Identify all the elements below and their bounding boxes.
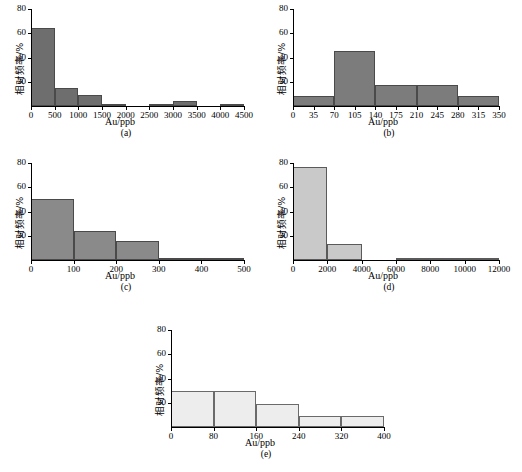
histogram-bar: [171, 391, 214, 427]
x-tick-label: 320: [321, 432, 361, 441]
x-tick-label: 400: [364, 432, 404, 441]
histogram-bar: [299, 416, 342, 427]
x-axis-label: Au/ppb: [230, 437, 290, 448]
y-axis-label: 相对频率/%: [152, 364, 166, 416]
bars-layer: [0, 0, 522, 472]
panel-caption: (e): [236, 449, 296, 459]
y-tick-label: 60: [143, 349, 166, 358]
x-axis-line: [171, 427, 385, 428]
histogram-bar: [341, 416, 384, 427]
y-tick: [168, 379, 172, 380]
x-tick-label: 0: [151, 432, 191, 441]
y-tick: [168, 354, 172, 355]
y-tick: [168, 330, 172, 331]
y-tick-label: 80: [143, 325, 166, 334]
histogram-bar: [214, 391, 257, 427]
y-tick: [168, 403, 172, 404]
histogram-bar: [256, 404, 299, 427]
x-tick-label: 80: [194, 432, 234, 441]
chart-panel-e: 020406080080160240320400Au/ppb相对频率/%(e): [0, 0, 522, 472]
